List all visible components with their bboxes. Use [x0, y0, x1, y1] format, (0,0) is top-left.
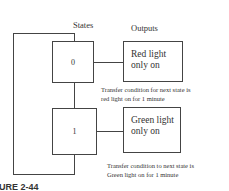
loop-bottom-rise — [74, 155, 75, 175]
red-light-output-box: Red light only on — [123, 41, 183, 82]
states-header: States — [73, 20, 93, 30]
loop-top-line — [13, 33, 75, 34]
state-connector — [74, 82, 75, 108]
state-0-label: 0 — [71, 58, 75, 67]
loop-bottom-line — [13, 174, 75, 175]
output-1-line1: Green light — [131, 115, 180, 126]
output-0-line1: Red light — [131, 49, 182, 60]
state-0-box: 0 — [52, 41, 94, 83]
condition-1-line2: Green light on for 1 minute — [107, 171, 194, 180]
condition-1-text: Transfer condition to next state is Gree… — [107, 162, 194, 179]
loop-top-drop — [74, 33, 75, 41]
output-1-line2: only on — [131, 126, 180, 137]
condition-1-line1: Transfer condition to next state is — [107, 162, 194, 171]
output-0-line2: only on — [131, 60, 182, 71]
figure-caption: URE 2-44 — [0, 182, 39, 191]
condition-0-line1: Transfer condition for next state is — [101, 86, 190, 95]
outputs-header: Outputs — [131, 23, 158, 33]
loop-left-line — [13, 33, 14, 175]
output-0-connector — [94, 62, 123, 63]
condition-0-text: Transfer condition for next state is red… — [101, 86, 190, 103]
output-1-connector — [97, 131, 123, 132]
condition-0-line2: red light on for 1 minute — [101, 95, 190, 104]
green-light-output-box: Green light only on — [123, 107, 181, 153]
state-1-label: 1 — [73, 127, 77, 136]
state-1-box: 1 — [52, 108, 97, 155]
